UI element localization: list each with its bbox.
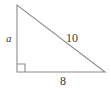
triangle-drawing bbox=[0, 0, 111, 92]
hypotenuse-label: 10 bbox=[66, 32, 78, 44]
vertical-leg-label: a bbox=[6, 33, 12, 44]
right-angle-marker-icon bbox=[17, 64, 25, 72]
triangle-outline bbox=[17, 5, 105, 72]
base-label: 8 bbox=[60, 75, 66, 87]
right-triangle-figure: a 10 8 bbox=[0, 0, 111, 92]
